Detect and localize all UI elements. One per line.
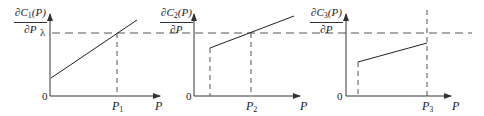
p3-label: P3: [422, 99, 433, 114]
y-axis-label-2: ∂C2(P) ∂P: [160, 6, 193, 35]
diagram-canvas: [0, 0, 484, 116]
panel-1: [50, 14, 160, 96]
p2-label: P2: [246, 99, 257, 114]
x-axis-label-2: P: [300, 99, 307, 114]
origin-label-2: 0: [186, 90, 192, 102]
cost-curve-1: [51, 20, 137, 78]
x-axis-label-1: P: [155, 99, 162, 114]
y-axis-label-3: ∂C3(P) ∂P: [310, 6, 343, 35]
p1-label: P1: [112, 99, 123, 114]
lambda-label: λ: [40, 26, 45, 38]
origin-label-1: 0: [42, 90, 48, 102]
x-axis-label-3: P: [452, 99, 459, 114]
cost-curve-3: [358, 43, 427, 62]
origin-label-3: 0: [337, 90, 343, 102]
panel-2: [194, 14, 300, 96]
cost-curve-2: [210, 16, 294, 48]
panel-3: [346, 10, 451, 96]
